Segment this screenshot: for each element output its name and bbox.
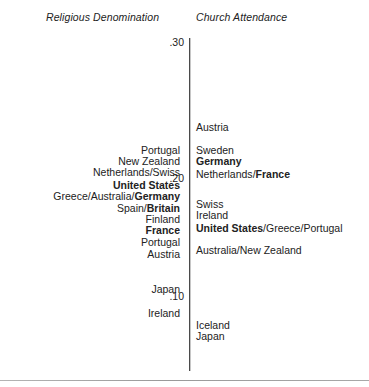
data-point-label: New Zealand [0,155,180,167]
data-point-label: Netherlands/Swiss [0,166,180,178]
data-point-label: Greece/Australia/Germany [0,190,180,202]
data-point-label: Austria [196,121,229,133]
data-point-label: United States/Greece/Portugal [196,222,343,234]
data-point-label: Iceland [196,319,230,331]
data-point-label: Germany [196,155,242,167]
data-point-label: Austria [0,248,180,260]
data-point-label: France [0,224,180,236]
data-point-label: Ireland [196,209,228,221]
column-header-religious-denomination: Religious Denomination [46,11,159,23]
data-point-label: Australia/New Zealand [196,244,302,256]
data-point-label: Portugal [0,144,180,156]
data-point-label: Portugal [0,236,180,248]
vertical-scale-axis [189,38,190,371]
data-point-label: Ireland [0,307,180,319]
data-point-label: Spain/Britain [0,202,180,214]
data-point-label: United States [0,179,180,191]
data-point-label: Finland [0,213,180,225]
data-point-label: Netherlands/France [196,168,290,180]
column-header-church-attendance: Church Attendance [196,11,287,23]
data-point-label: Swiss [196,198,223,210]
axis-tick-label-30: .30 [158,36,184,48]
data-point-label: Japan [196,330,225,342]
bottom-divider-rule [0,380,369,381]
two-column-scale-figure: Religious Denomination Church Attendance… [0,0,369,387]
data-point-label: Sweden [196,144,234,156]
data-point-label: Japan [0,283,180,295]
